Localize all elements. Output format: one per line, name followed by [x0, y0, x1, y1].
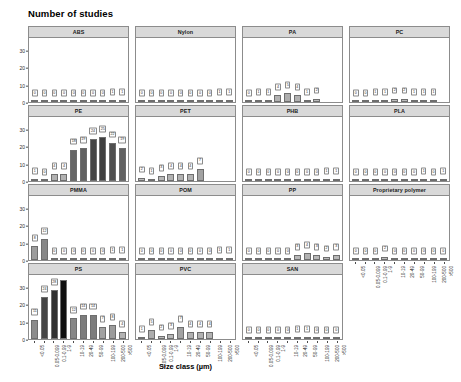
- bar: [41, 179, 48, 181]
- bar-slot: 0: [380, 117, 390, 181]
- bar-series: 01145412: [243, 38, 342, 102]
- bar-slot: 1: [108, 196, 118, 260]
- x-axis-tick-mark: [297, 341, 298, 343]
- bar-slot: 0: [361, 117, 371, 181]
- bar-slot: 0: [40, 117, 50, 181]
- bar-slot: 0: [98, 196, 108, 260]
- facet-strip-label: PLA: [350, 106, 449, 117]
- bar: [187, 174, 194, 181]
- bar-value-label: 0: [32, 90, 37, 97]
- facet-panel-pe: PE1044181924252219: [28, 105, 129, 182]
- bar-value-label: 4: [61, 163, 66, 170]
- bar-slot: [215, 117, 225, 181]
- x-axis-tick-mark: [267, 341, 268, 343]
- bar-series: 0000034323: [243, 196, 342, 260]
- bar-value-label: 0: [266, 248, 271, 255]
- bar-value-label: 1: [421, 89, 426, 96]
- bar-slot: 0: [283, 117, 293, 181]
- bar-value-label: 0: [139, 90, 144, 97]
- bar-slot: 2: [137, 117, 147, 181]
- bar-slot: 0: [409, 196, 419, 260]
- bar-slot: [322, 38, 332, 102]
- y-axis-tick-label: 30: [19, 127, 25, 133]
- bar: [274, 95, 281, 102]
- bar: [294, 255, 301, 260]
- bar-slot: 1: [117, 38, 127, 102]
- bar-value-label: 4: [178, 163, 183, 170]
- y-axis-tick-label: 0: [22, 337, 25, 343]
- bar-value-label: 1: [324, 168, 329, 175]
- bar-slot: 2: [380, 196, 390, 260]
- x-axis-tick-mark: [220, 341, 221, 343]
- bar-slot: 2: [322, 196, 332, 260]
- bar: [313, 337, 320, 339]
- bar-slot: 3: [331, 196, 341, 260]
- bar-slot: [224, 117, 234, 181]
- bar-slot: 0: [88, 196, 98, 260]
- bar: [158, 258, 165, 260]
- bar: [313, 255, 320, 260]
- x-axis-tick-label: 10-19: [79, 345, 84, 357]
- bar-slot: 0: [79, 196, 89, 260]
- bar: [294, 95, 301, 102]
- y-axis-tick-label: 20: [19, 223, 25, 229]
- bar-slot: 3: [166, 275, 176, 339]
- bar-value-label: 4: [304, 242, 309, 249]
- bar: [187, 100, 194, 102]
- bar-slot: 0: [186, 196, 196, 260]
- bar-value-label: 7: [178, 315, 183, 322]
- plot-area: 81200000011: [29, 196, 128, 260]
- x-axis-tick-label: 1-9: [281, 345, 286, 352]
- facet-panel-ps: PS11242834121414784: [28, 263, 129, 340]
- bar-value-label: 0: [295, 169, 300, 176]
- plot-area: 15237444: [136, 275, 235, 339]
- y-axis-tick-mark: [26, 85, 28, 86]
- y-axis-tick-label: 30: [19, 285, 25, 291]
- x-axis-tick-mark: [83, 341, 84, 343]
- bar: [381, 100, 388, 102]
- bar: [313, 99, 320, 103]
- bar-value-label: 3: [314, 243, 319, 250]
- bar-slot: 4: [186, 117, 196, 181]
- bar-value-label: 0: [353, 90, 358, 97]
- bar: [323, 337, 330, 339]
- bar-value-label: 14: [89, 303, 96, 310]
- bar: [167, 258, 174, 260]
- bar-slot: 4: [273, 38, 283, 102]
- x-axis-tick-mark: [394, 262, 395, 264]
- bar: [333, 179, 340, 181]
- bar-value-label: 0: [168, 90, 173, 97]
- bar-slot: 0: [49, 196, 59, 260]
- bar-value-label: 1: [411, 89, 416, 96]
- bar-value-label: 3: [295, 243, 300, 250]
- bar-value-label: 7: [197, 157, 202, 164]
- bar-value-label: 4: [207, 321, 212, 328]
- facet-strip-label: SAN: [243, 264, 342, 275]
- bar: [372, 179, 379, 181]
- bar-slot: 7: [195, 117, 205, 181]
- bar-slot: 4: [205, 275, 215, 339]
- bar-slot: 14: [88, 275, 98, 339]
- facet-strip-label: PE: [29, 106, 128, 117]
- x-axis-tick-mark: [327, 341, 328, 343]
- bar: [138, 100, 145, 102]
- bar-series: 0002000000: [350, 196, 449, 260]
- bar-slot: 1: [224, 38, 234, 102]
- bar-slot: 1: [302, 38, 312, 102]
- bar: [411, 100, 418, 102]
- bar-value-label: 1: [431, 89, 436, 96]
- figure-canvas: Number of studies ABS00000000110102030Ny…: [0, 0, 461, 382]
- bar-slot: 0: [302, 117, 312, 181]
- bar: [197, 332, 204, 339]
- bar-value-label: 0: [314, 169, 319, 176]
- x-axis-tick-label: 100-199: [112, 345, 117, 362]
- bar: [197, 258, 204, 260]
- plot-area: 1044181924252219: [29, 117, 128, 181]
- bar-slot: 0: [273, 117, 283, 181]
- x-axis-tick-label: 10-19: [293, 345, 298, 357]
- bar-value-label: 0: [168, 248, 173, 255]
- bar-series: 0000011000: [243, 275, 342, 339]
- y-axis-tick-label: 10: [19, 241, 25, 247]
- bar: [99, 258, 106, 260]
- bar: [430, 179, 437, 181]
